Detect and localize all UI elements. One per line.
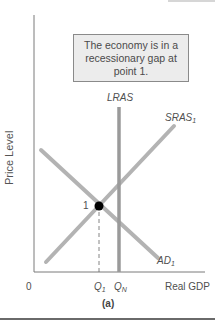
equilibrium-point-1 [95, 202, 104, 211]
qn-text: Q [114, 281, 122, 292]
sras1-curve [46, 126, 174, 262]
sras-label-subscript: 1 [192, 117, 196, 124]
q1-subscript: 1 [102, 286, 106, 293]
ad-label-subscript: 1 [171, 260, 175, 267]
annotation-line-3: point 1. [74, 65, 188, 78]
annotation-line-1: The economy is in a [74, 39, 188, 52]
bottom-divider [0, 318, 215, 320]
annotation-line-2: recessionary gap at [74, 52, 188, 65]
ad1-label: AD1 [157, 255, 175, 267]
sras1-label: SRAS1 [165, 112, 196, 124]
y-axis-label: Price Level [3, 131, 15, 185]
point-1-label: 1 [83, 200, 89, 211]
annotation-box: The economy is in a recessionary gap at … [73, 34, 189, 82]
lras-label: LRAS [107, 92, 133, 103]
qn-subscript: N [122, 286, 127, 293]
qn-tick-label: QN [114, 281, 127, 293]
q1-text: Q [94, 281, 102, 292]
x-axis-label: Real GDP [165, 281, 210, 292]
panel-label: (a) [102, 298, 114, 309]
q1-tick-label: Q1 [94, 281, 106, 293]
origin-label: 0 [26, 281, 32, 292]
ad-label-text: AD [157, 255, 171, 266]
lras-label-text: LRAS [107, 92, 133, 103]
sras-label-text: SRAS [165, 112, 192, 123]
